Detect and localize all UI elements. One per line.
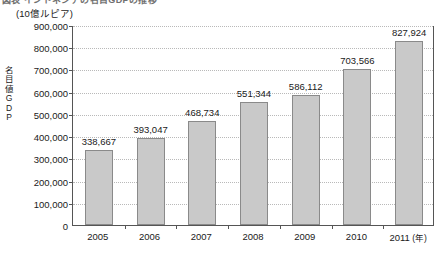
bar-value-label: 827,924 <box>392 27 426 38</box>
bar-slot: 827,924 <box>383 26 435 225</box>
clipped-figure-title-text: 図表 インドネシアの名目GDPの推移 <box>2 0 157 5</box>
x-axis-tick-label: 2008 <box>242 231 263 242</box>
bar[interactable] <box>240 102 268 225</box>
bar-slot: 551,344 <box>228 26 280 225</box>
bar-slot: 586,112 <box>280 26 332 225</box>
bar-value-label: 393,047 <box>133 124 167 135</box>
y-axis-tick-label: 300,000 <box>6 154 68 165</box>
bar-slot: 468,734 <box>176 26 228 225</box>
bar[interactable] <box>395 41 423 225</box>
y-axis-tick-label: 900,000 <box>6 21 68 32</box>
x-axis-tick-label: 2009 <box>294 231 315 242</box>
bar[interactable] <box>343 69 371 225</box>
bar-value-label: 468,734 <box>185 107 219 118</box>
bar-value-label: 338,667 <box>82 136 116 147</box>
x-axis-tick-mark <box>332 225 333 229</box>
bar-series: 338,667393,047468,734551,344586,112703,5… <box>73 26 433 225</box>
x-axis-tick-label: 2011 (年) <box>389 231 426 243</box>
y-axis-tick-label: 400,000 <box>6 132 68 143</box>
x-axis-tick-mark <box>228 225 229 229</box>
bar-slot: 393,047 <box>125 26 177 225</box>
x-axis-tick-mark <box>125 225 126 229</box>
x-axis-tick-label: 2006 <box>139 231 160 242</box>
y-axis-tick-label: 200,000 <box>6 176 68 187</box>
bar-slot: 703,566 <box>332 26 384 225</box>
bar[interactable] <box>188 121 216 225</box>
x-axis-tick-label: 2005 <box>87 231 108 242</box>
y-axis-tick-label: 600,000 <box>6 87 68 98</box>
x-axis-tick-label: 2010 <box>346 231 367 242</box>
y-axis-tick-label: 700,000 <box>6 65 68 76</box>
x-axis-tick-mark <box>383 225 384 229</box>
y-axis-tick-label: 500,000 <box>6 109 68 120</box>
x-axis-tick-mark <box>280 225 281 229</box>
unit-caption: (10億ルピア) <box>16 6 73 20</box>
bar[interactable] <box>85 150 113 225</box>
y-axis-tick-label: 100,000 <box>6 198 68 209</box>
plot-area: 338,667393,047468,734551,344586,112703,5… <box>72 26 434 226</box>
bar[interactable] <box>292 95 320 225</box>
x-axis-tick-labels: 2005200620072008200920102011 (年) <box>72 231 434 247</box>
bar[interactable] <box>137 138 165 225</box>
y-axis-tick-label: 0 <box>6 221 68 232</box>
x-axis-tick-label: 2007 <box>191 231 212 242</box>
clipped-figure-title: 図表 インドネシアの名目GDPの推移 <box>0 0 447 5</box>
x-axis-tick-mark <box>176 225 177 229</box>
y-axis-tick-label: 800,000 <box>6 43 68 54</box>
bar-slot: 338,667 <box>73 26 125 225</box>
bar-value-label: 703,566 <box>340 55 374 66</box>
bar-value-label: 586,112 <box>289 81 323 92</box>
x-axis-unit-suffix: (年) <box>410 233 427 243</box>
bar-value-label: 551,344 <box>237 88 271 99</box>
